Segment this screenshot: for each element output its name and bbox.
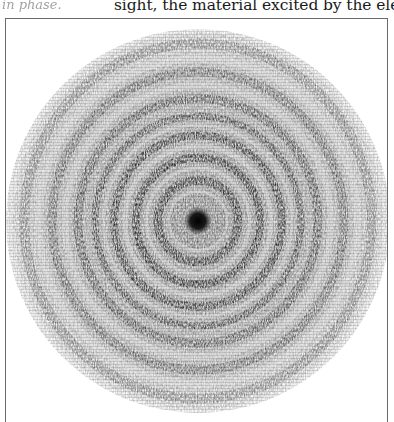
body-text-line: sight, the material excited by the elect…: [114, 0, 394, 14]
margin-note: in phase.: [2, 0, 62, 12]
figure-frame: [5, 18, 388, 422]
diffraction-pattern-image: [6, 19, 388, 422]
